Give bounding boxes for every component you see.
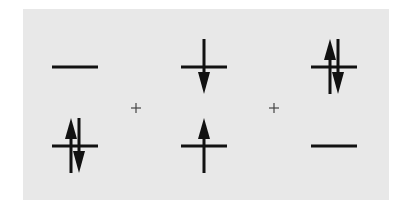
orbital-level-lower: [181, 118, 227, 173]
electron-configuration-diagram: [0, 0, 409, 204]
orbital-level-upper: [181, 39, 227, 94]
orbital-level-lower: [52, 118, 98, 173]
plus-sign-icon: [269, 103, 279, 113]
orbital-level-upper: [311, 39, 357, 94]
plus-sign-icon: [131, 103, 141, 113]
